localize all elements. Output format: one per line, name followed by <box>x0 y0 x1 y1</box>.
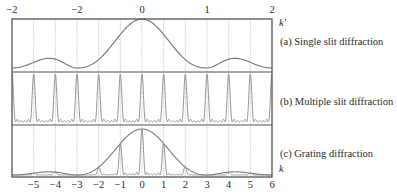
top-axis-name: k' <box>279 17 286 28</box>
bottom-axis-name: k <box>279 163 284 174</box>
top-tick-label: 1 <box>204 4 209 15</box>
bottom-tick-label: −2 <box>93 179 104 190</box>
bottom-tick-label: 3 <box>204 179 209 190</box>
caption-single-slit: (a) Single slit diffraction <box>280 36 383 47</box>
bottom-tick-label: 5 <box>248 179 253 190</box>
caption-multiple-slit: (b) Multiple slit diffraction <box>280 96 393 107</box>
plot-frame <box>12 19 272 177</box>
top-tick-label: −2 <box>71 4 82 15</box>
bottom-tick-label: 2 <box>183 179 188 190</box>
bottom-tick-label: 1 <box>161 179 166 190</box>
bottom-tick-label: −5 <box>28 179 39 190</box>
multiple-slit-curve <box>12 74 272 122</box>
caption-grating: (c) Grating diffraction <box>280 148 373 159</box>
bottom-tick-label: −4 <box>50 179 61 190</box>
top-tick-label: 2 <box>269 4 274 15</box>
bottom-tick-label: −1 <box>115 179 126 190</box>
bottom-tick-label: 0 <box>139 179 144 190</box>
top-tick-label: 0 <box>139 4 144 15</box>
bottom-tick-label: 6 <box>269 179 274 190</box>
bottom-tick-label: −3 <box>71 179 82 190</box>
top-tick-label: −2 <box>6 4 17 15</box>
bottom-tick-label: 4 <box>226 179 231 190</box>
cropped-caption-text <box>188 191 397 196</box>
